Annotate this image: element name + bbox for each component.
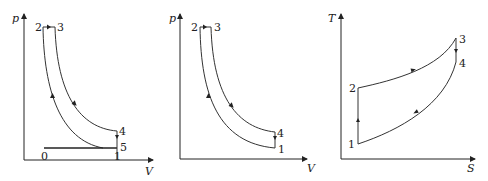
arrow-icon [47,25,51,30]
point-label-1: 1 [278,143,285,156]
point-label-1: 1 [348,138,355,151]
diagram-pv-2: p V 2 3 4 1 [169,12,316,175]
process-1-2 [43,27,103,148]
x-axis-label: V [307,162,316,175]
y-axis-label: p [12,12,19,25]
process-3-4 [211,27,275,132]
point-label-2: 2 [349,82,356,95]
point-label-4: 4 [459,57,466,70]
arrow-icon [356,118,360,122]
arrow-icon [454,49,458,53]
point-label-3: 3 [214,21,221,34]
diagram-pv-1: p V 2 3 4 5 0 1 [12,12,154,178]
process-3-4 [55,27,117,131]
point-label-4: 4 [119,125,126,138]
diagram-ts: T S 1 2 3 4 [328,12,475,175]
point-label-4: 4 [277,127,284,140]
point-label-3: 3 [57,21,64,34]
point-label-1: 1 [114,150,121,163]
arrow-icon [50,93,55,98]
diagrams-canvas: p V 2 3 4 5 0 1 p V 2 [0,0,488,181]
point-label-2: 2 [35,21,42,34]
point-label-5: 5 [120,141,127,154]
x-axis-label: S [467,162,475,175]
arrow-icon [203,25,207,30]
point-label-2: 2 [191,21,198,34]
x-axis-label: V [145,165,154,178]
y-axis-label: T [328,12,337,25]
point-label-0: 0 [41,150,48,163]
process-2-3 [358,38,456,88]
y-axis-label: p [169,12,176,25]
point-label-3: 3 [459,33,466,46]
